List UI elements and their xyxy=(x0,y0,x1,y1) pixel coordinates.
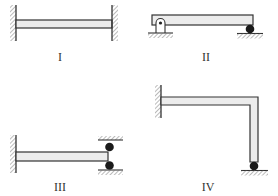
roller-icon xyxy=(246,25,255,34)
pin-support-icon xyxy=(156,19,165,34)
label-i: I xyxy=(45,50,75,65)
l-frame xyxy=(161,97,258,162)
panel-ii xyxy=(148,15,263,39)
panel-i xyxy=(10,5,118,41)
wall-hatch xyxy=(155,85,161,118)
top-plate-hatch xyxy=(98,136,123,140)
diagram-canvas xyxy=(0,0,278,196)
pin-ground-hatch xyxy=(148,33,173,38)
roller-ground-hatch xyxy=(237,34,263,39)
panel-iii xyxy=(10,135,123,175)
left-wall-hatch xyxy=(10,5,16,41)
right-wall-hatch xyxy=(112,5,118,41)
label-iv: IV xyxy=(193,180,223,195)
bottom-plate-hatch xyxy=(98,170,123,175)
label-iii: III xyxy=(45,180,75,195)
bottom-roller-icon xyxy=(105,161,114,170)
label-ii: II xyxy=(191,50,221,65)
pin-icon xyxy=(159,21,162,24)
roller-icon xyxy=(250,162,259,171)
beam xyxy=(16,20,112,28)
wall-hatch xyxy=(10,135,16,173)
beam xyxy=(16,152,108,161)
beam xyxy=(152,15,253,25)
panel-iv xyxy=(155,85,268,176)
top-roller-icon xyxy=(105,143,114,152)
ground-hatch xyxy=(241,171,268,176)
